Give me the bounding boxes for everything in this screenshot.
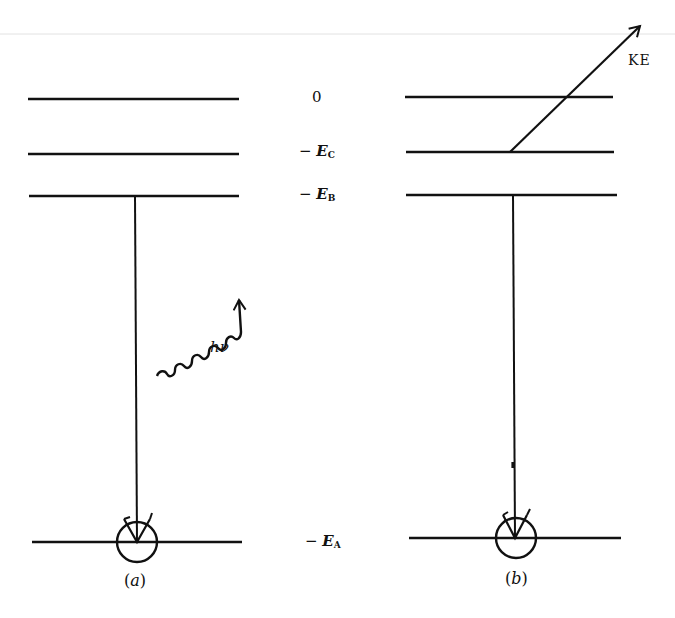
ke-label: KE [628,52,651,68]
label-ea: − EA [305,532,341,550]
label-zero: 0 [312,88,322,106]
panel-a-transition [117,196,157,562]
diagram-graphics [0,0,675,618]
label-ec: − EC [299,142,335,160]
label-eb: − EB [299,185,335,203]
panel-b-transition [496,195,536,558]
ejected-electron-arrow [510,26,640,152]
energy-diagram: 0 − EC − EB − EA hν KE (a) (b) [0,0,675,618]
panel-b-caption: (b) [505,569,528,588]
panel-a-caption: (a) [124,571,146,590]
photon-label: hν [210,338,229,356]
